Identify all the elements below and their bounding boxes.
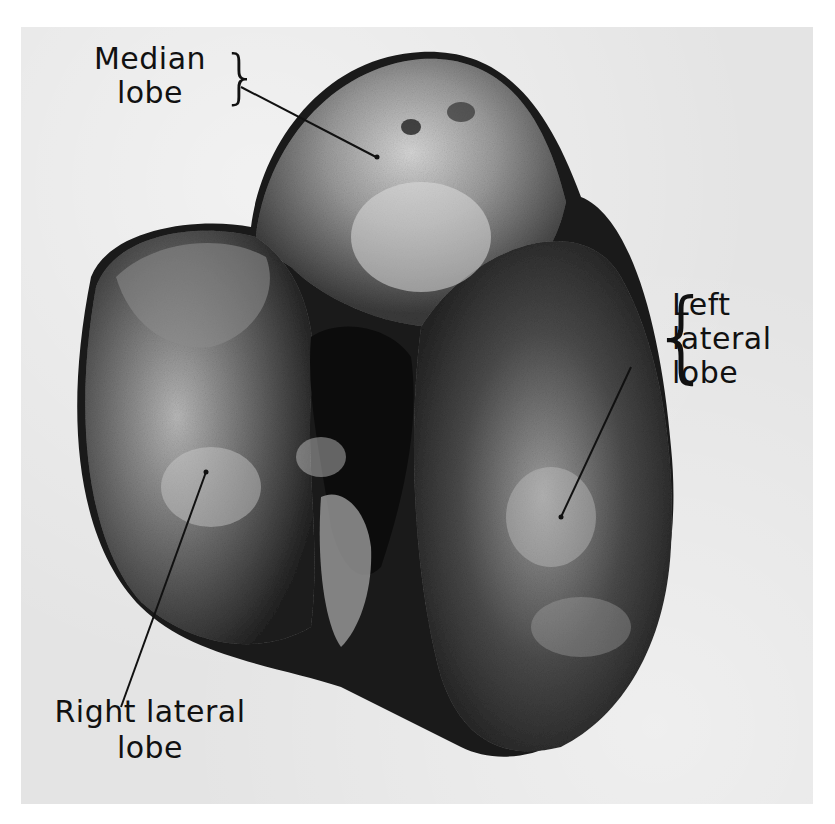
specimen-image — [21, 27, 813, 804]
label-line: lobe — [672, 358, 792, 388]
label-median-lobe: Median lobe — [75, 44, 225, 108]
label-line: lateral — [672, 324, 792, 354]
label-line: Right lateral — [30, 697, 270, 727]
label-line: Left — [672, 290, 792, 320]
label-left-lateral-lobe: Left lateral lobe — [672, 290, 792, 388]
specimen-photo — [21, 27, 813, 804]
median-lobe-brace: } — [222, 48, 259, 106]
label-line: Median — [75, 44, 225, 74]
label-line: lobe — [30, 733, 270, 763]
label-line: lobe — [75, 78, 225, 108]
label-right-lateral-lobe: Right lateral lobe — [30, 697, 270, 763]
